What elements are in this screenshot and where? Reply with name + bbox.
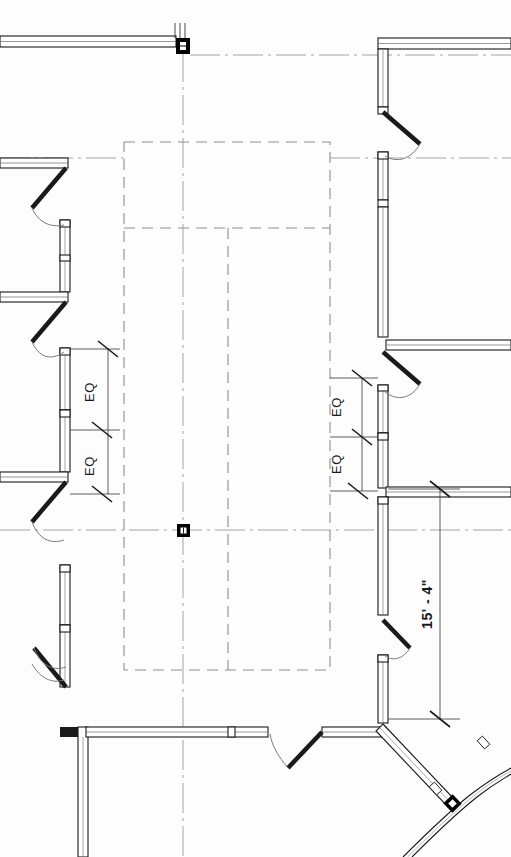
eq-label-left-lower: EQ <box>82 456 97 476</box>
wall-left-vertical-d <box>60 565 70 625</box>
wall-right-lower-b <box>378 433 388 488</box>
wall-top-right <box>378 38 511 49</box>
wall-right-lower-a <box>378 385 388 433</box>
eq-label-left-upper: EQ <box>82 382 97 402</box>
wall-right-branch-upper <box>386 340 511 350</box>
wall-left-vertical-e <box>60 625 70 687</box>
wall-right-upper <box>378 49 388 114</box>
wall-left-vertical-b <box>60 348 70 410</box>
wall-left-stub-upper <box>0 158 68 168</box>
wall-left-vertical-c <box>60 410 70 472</box>
wall-right-mid-upper <box>378 152 388 207</box>
wall-left-vertical-a <box>60 220 70 292</box>
column-grid-center <box>177 524 190 537</box>
eq-label-right-upper: EQ <box>329 397 344 417</box>
floor-plan-canvas: EQ EQ EQ EQ 15' - 4" <box>0 0 511 857</box>
floor-plan-drawing: EQ EQ EQ EQ 15' - 4" <box>0 0 511 857</box>
wall-left-stub-lower <box>0 472 68 482</box>
wall-left-stub-mid <box>0 292 68 302</box>
overall-dimension-label: 15' - 4" <box>419 579 435 629</box>
wall-right-bottom <box>378 655 388 723</box>
eq-label-right-lower: EQ <box>329 454 344 474</box>
wall-right-lower-long <box>378 497 388 615</box>
wall-top-left <box>0 36 176 47</box>
wall-bottom-left <box>86 727 268 737</box>
wall-right-mid <box>378 207 388 337</box>
